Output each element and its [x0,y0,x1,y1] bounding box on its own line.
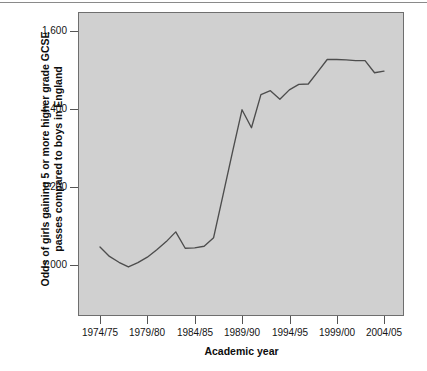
x-axis: 1974/75 1979/80 1984/85 1989/90 1994/95 … [0,316,427,371]
x-tick-mark-1974-75 [100,316,101,324]
y-tick-mark-1000 [70,265,78,266]
y-tick-mark-1200 [70,187,78,188]
x-tick-mark-1979-80 [147,316,148,324]
x-tick-mark-1994-95 [290,316,291,324]
y-tick-mark-1400 [70,109,78,110]
x-tick-mark-1989-90 [242,316,243,324]
y-axis-title-line-2: passes compared to boys in England [52,9,65,309]
x-tick-label-1999-00: 1999/00 [319,327,355,338]
x-tick-label-1974-75: 1974/75 [82,327,118,338]
x-tick-mark-1984-85 [195,316,196,324]
x-axis-title: Academic year [0,345,427,357]
y-axis-title-line-1: Odds of girls gaining 5 or more higher g… [39,9,52,309]
x-tick-mark-1999-00 [337,316,338,324]
figure: 1.600 1.400 1.200 1.000 Odds of girls ga… [0,0,427,371]
x-tick-label-1979-80: 1979/80 [129,327,165,338]
series-line-odds-ratio [100,59,384,266]
x-tick-label-2004-05: 2004/05 [366,327,402,338]
x-tick-label-1994-95: 1994/95 [272,327,308,338]
x-tick-label-1989-90: 1989/90 [224,327,260,338]
y-tick-mark-1600 [70,31,78,32]
y-axis-title: Odds of girls gaining 5 or more higher g… [39,9,65,309]
x-tick-label-1984-85: 1984/85 [177,327,213,338]
chart-canvas [78,12,404,316]
x-tick-mark-2004-05 [384,316,385,324]
